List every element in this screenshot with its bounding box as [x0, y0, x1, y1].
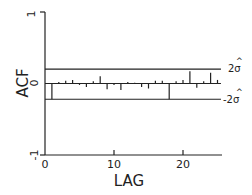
- upper-band-hat: ^: [236, 57, 243, 66]
- x-axis-label: LAG: [114, 172, 144, 190]
- lower-band-hat: ^: [236, 88, 243, 97]
- y-axis-label: ACF: [14, 68, 32, 97]
- acf-chart: 1 0 -1 ACF 0 10 20 LAG 2σ ^ -2σ ^: [0, 0, 252, 195]
- x-tick-label-0: 0: [42, 158, 49, 171]
- x-tick-label-20: 20: [176, 158, 190, 171]
- confidence-bands: [45, 69, 221, 99]
- x-tick-label-10: 10: [107, 158, 121, 171]
- y-tick-label-top: 1: [25, 11, 38, 18]
- acf-bars: [52, 71, 218, 99]
- y-tick-label-bottom: -1: [28, 150, 41, 161]
